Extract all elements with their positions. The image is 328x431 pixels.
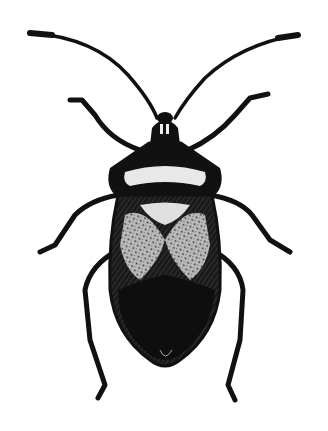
abdomen [110,195,221,366]
pronotum [108,139,221,196]
antennae [30,33,298,118]
insect-illustration [0,0,328,431]
illustration-canvas [0,0,328,431]
